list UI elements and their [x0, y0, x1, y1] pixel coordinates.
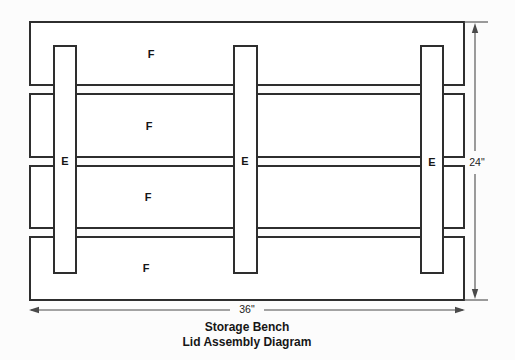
cleat-e-center-label: E	[241, 155, 248, 167]
arrow-down-icon	[472, 289, 478, 299]
lid-assembly-diagram: F F F F E E E 24" 36" Storage Bench Lid …	[0, 0, 515, 360]
board-f-3-label: F	[145, 191, 152, 203]
arrow-up-icon	[472, 23, 478, 33]
arrow-left-icon	[29, 307, 39, 313]
board-f-4-label: F	[143, 262, 150, 274]
cleat-e-left-label: E	[61, 155, 68, 167]
arrow-right-icon	[455, 307, 465, 313]
diagram-title: Storage Bench	[205, 320, 290, 334]
height-dimension: 24"	[464, 22, 488, 300]
cleat-e-right-label: E	[428, 156, 435, 168]
width-dimension: 36"	[29, 303, 465, 315]
diagram-subtitle: Lid Assembly Diagram	[183, 335, 312, 349]
height-dimension-label: 24"	[469, 156, 485, 168]
board-f-1-label: F	[148, 48, 155, 60]
width-dimension-label: 36"	[239, 303, 255, 315]
board-f-2-label: F	[146, 120, 153, 132]
